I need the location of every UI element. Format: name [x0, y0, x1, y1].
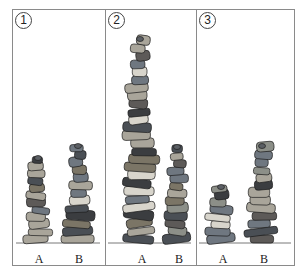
rock-cairn-b [162, 145, 191, 245]
rock-cairn-a [204, 185, 235, 245]
rock-cairn-b [61, 144, 95, 244]
rock-cairn-illustrations [0, 0, 301, 273]
cairn-comparison-figure: 1 A B 2 A B 3 A B [0, 0, 301, 273]
rock-cairn-a [122, 34, 160, 244]
rock-cairn-b [244, 141, 278, 243]
rock-cairn-a [23, 156, 53, 244]
